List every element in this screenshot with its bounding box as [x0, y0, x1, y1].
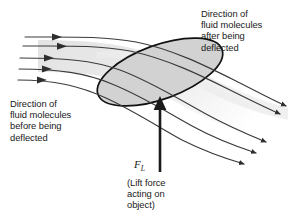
lift-force-symbol-subscript: L — [141, 164, 145, 173]
lift-force-arrow — [154, 96, 167, 172]
lift-force-symbol: FL — [134, 158, 145, 173]
label-before-deflection: Direction of fluid molecules before bein… — [10, 98, 71, 143]
lift-force-caption: (Lift force acting on object) — [127, 177, 166, 211]
lift-force-diagram: Direction of fluid molecules after being… — [0, 0, 298, 220]
lift-force-symbol-base: F — [134, 158, 141, 170]
label-after-deflection: Direction of fluid molecules after being… — [201, 8, 262, 53]
